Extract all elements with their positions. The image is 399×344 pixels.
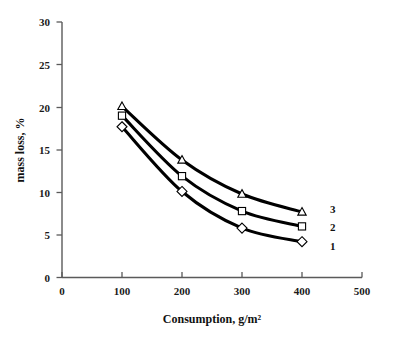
data-point-square: [298, 223, 305, 230]
y-tick-label-15: 15: [39, 144, 51, 156]
data-point-square: [118, 112, 125, 119]
data-point-diamond: [237, 223, 247, 233]
series-label-3: 3: [330, 203, 336, 215]
x-axis-ticks: [62, 272, 362, 278]
x-tick-label-0: 0: [59, 285, 65, 297]
y-tick-label-0: 0: [45, 272, 51, 284]
y-tick-label-5: 5: [45, 229, 51, 241]
x-tick-label-200: 200: [174, 285, 191, 297]
y-tick-label-25: 25: [39, 59, 51, 71]
x-tick-label-300: 300: [234, 285, 251, 297]
x-tick-label-500: 500: [354, 285, 371, 297]
x-axis-title: Consumption, g/m²: [163, 312, 262, 326]
data-point-triangle: [118, 102, 126, 110]
y-axis-title: mass loss, %: [13, 117, 27, 182]
y-tick-label-30: 30: [39, 16, 51, 28]
y-tick-label-10: 10: [39, 187, 51, 199]
data-point-diamond: [297, 237, 307, 247]
x-tick-label-400: 400: [294, 285, 311, 297]
line-chart: 0 5 10 15 20 25 30 0 100 200 300 400 500…: [0, 0, 399, 344]
y-tick-label-20: 20: [39, 102, 51, 114]
y-axis-ticks: [57, 22, 63, 278]
series-label-1: 1: [330, 240, 336, 252]
data-point-square: [238, 207, 245, 214]
data-point-square: [178, 173, 185, 180]
x-tick-label-100: 100: [114, 285, 131, 297]
chart-page: 0 5 10 15 20 25 30 0 100 200 300 400 500…: [0, 0, 399, 344]
series-label-2: 2: [330, 221, 336, 233]
